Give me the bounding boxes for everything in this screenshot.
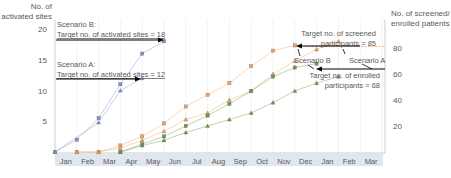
square-marker-icon xyxy=(184,124,187,127)
x-tick-label: Mar xyxy=(365,157,378,166)
series-activated-sites-scenario-b xyxy=(53,40,165,154)
square-marker-icon xyxy=(206,93,209,96)
square-marker-icon xyxy=(97,117,100,120)
square-marker-icon xyxy=(141,135,144,138)
scenario-a-sites-annotation: Scenario A: Target no. of activated site… xyxy=(56,60,165,82)
square-marker-icon xyxy=(162,135,165,138)
x-axis-tick-labels: JanFebMarAprMayJunJulAugSepOctNovDecJanF… xyxy=(60,157,378,166)
x-tick-label: Sep xyxy=(234,157,247,166)
right-tick-label: 40 xyxy=(393,96,402,105)
x-tick-label: Jul xyxy=(192,157,202,166)
enrolled-target-line2: participants = 68 xyxy=(325,81,380,90)
scenario-pointer-labels: Scenario B Scenario A xyxy=(294,49,385,69)
scenario-b-pointer-label: Scenario B xyxy=(294,56,331,65)
right-tick-label: 20 xyxy=(393,122,402,131)
scenario-a-pointer-label: Scenario A xyxy=(349,56,385,65)
x-tick-label: Feb xyxy=(81,157,94,166)
left-axis-label-line1: No. of xyxy=(31,2,53,11)
x-tick-label: Oct xyxy=(256,157,269,166)
square-marker-icon xyxy=(228,82,231,85)
square-marker-icon xyxy=(250,89,253,92)
square-marker-icon xyxy=(228,102,231,105)
square-marker-icon xyxy=(141,52,144,55)
triangle-marker-icon xyxy=(249,111,253,115)
x-tick-label: Mar xyxy=(103,157,116,166)
square-marker-icon xyxy=(293,66,296,69)
scenario-a-target-text: Target no. of activated sites = 12 xyxy=(57,70,165,79)
square-marker-icon xyxy=(250,65,253,68)
right-axis-ticks: 20406080 xyxy=(393,44,402,131)
square-marker-icon xyxy=(271,49,274,52)
x-tick-label: Dec xyxy=(299,157,313,166)
left-tick-label: 15 xyxy=(38,56,47,65)
scenario-b-sites-annotation: Scenario B: Target no. of activated site… xyxy=(56,20,165,43)
enrolled-target-line1: Target no. of enrolled xyxy=(310,71,380,80)
x-tick-label: Apr xyxy=(125,157,137,166)
x-tick-label: Jan xyxy=(321,157,333,166)
triangle-marker-icon xyxy=(118,89,122,93)
square-marker-icon xyxy=(162,122,165,125)
left-axis-label-line2: activated sites xyxy=(1,12,52,21)
dual-axis-line-chart: No. of activated sites No. of screened/ … xyxy=(0,0,451,178)
right-tick-label: 80 xyxy=(393,44,402,53)
square-marker-icon xyxy=(293,44,296,47)
x-tick-label: Aug xyxy=(212,157,225,166)
scenario-a-title: Scenario A: xyxy=(57,60,95,69)
right-axis-label-line1: No. of screened/ xyxy=(391,9,450,18)
arrowhead-icon xyxy=(296,44,302,49)
triangle-marker-icon xyxy=(162,129,166,133)
square-marker-icon xyxy=(184,105,187,108)
left-axis-ticks: 5101520 xyxy=(38,25,47,126)
x-tick-label: May xyxy=(146,157,160,166)
scenario-b-title: Scenario B: xyxy=(57,20,96,29)
enrolled-target-annotation: Target no. of enrolled participants = 68 xyxy=(310,67,385,91)
left-tick-label: 20 xyxy=(38,25,47,34)
square-marker-icon xyxy=(75,138,78,141)
scenario-b-target-text: Target no. of activated sites = 18 xyxy=(57,30,165,39)
screened-target-line1: Target no. of screened xyxy=(301,29,376,38)
square-marker-icon xyxy=(119,83,122,86)
x-tick-label: Jan xyxy=(60,157,72,166)
triangle-marker-icon xyxy=(271,101,275,105)
x-tick-label: Feb xyxy=(343,157,356,166)
square-marker-icon xyxy=(206,114,209,117)
left-tick-label: 5 xyxy=(43,117,48,126)
square-marker-icon xyxy=(271,75,274,78)
left-tick-label: 10 xyxy=(38,87,47,96)
screened-target-annotation: Target no. of screened participants = 85 xyxy=(296,29,385,49)
x-tick-label: Jun xyxy=(169,157,181,166)
right-axis-label-line2: enrolled patients xyxy=(391,19,450,28)
x-tick-label: Nov xyxy=(277,157,291,166)
right-tick-label: 60 xyxy=(393,70,402,79)
